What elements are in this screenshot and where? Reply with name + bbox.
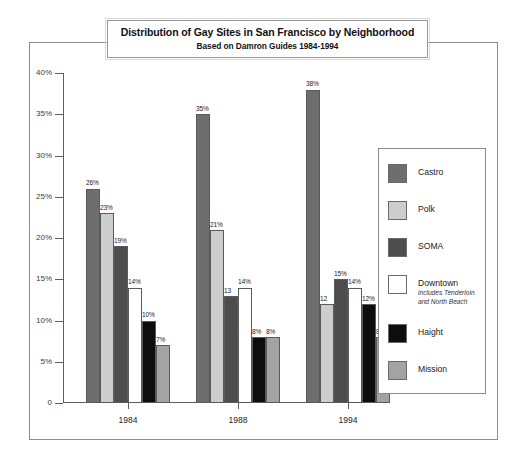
- y-axis-tick-label: 30%: [36, 152, 52, 160]
- chart-legend: CastroPolkSOMADowntownincludes Tenderloi…: [378, 148, 486, 394]
- legend-item-castro[interactable]: Castro: [388, 164, 443, 183]
- legend-label: Haight: [418, 327, 443, 338]
- legend-item-polk[interactable]: Polk: [388, 201, 435, 220]
- y-axis-tick-label: 20%: [36, 234, 52, 242]
- plot-area: 05%10%15%20%25%30%35%40% 26%23%19%14%10%…: [63, 73, 370, 403]
- bar-mission[interactable]: [266, 337, 280, 403]
- x-axis-tick-label: 1994: [339, 415, 358, 425]
- legend-label: Downtown: [418, 278, 475, 289]
- bar-value-label: 12: [320, 296, 327, 303]
- bar-castro[interactable]: [196, 114, 210, 403]
- legend-swatch-icon: [388, 361, 407, 380]
- bar-value-label: 7%: [156, 337, 165, 344]
- legend-text: Downtownincludes Tenderloinand North Bea…: [418, 278, 475, 306]
- bar-slot: 7%: [156, 73, 170, 403]
- x-axis-tick: [348, 403, 349, 409]
- bar-group: 35%21%1314%8%8%: [196, 73, 280, 403]
- legend-item-soma[interactable]: SOMA: [388, 238, 443, 257]
- bar-downtown[interactable]: [128, 288, 142, 404]
- bar-polk[interactable]: [100, 213, 114, 403]
- legend-item-haight[interactable]: Haight: [388, 324, 443, 343]
- bar-slot: 14%: [238, 73, 252, 403]
- bar-slot: 19%: [114, 73, 128, 403]
- bar-downtown[interactable]: [348, 288, 362, 404]
- legend-swatch-icon: [388, 324, 407, 343]
- bar-slot: 23%: [100, 73, 114, 403]
- bar-value-label: 10%: [142, 312, 155, 319]
- legend-text: SOMA: [418, 241, 443, 252]
- y-axis-tick: [55, 279, 63, 280]
- bar-haight[interactable]: [142, 321, 156, 404]
- bar-slot: 12%: [362, 73, 376, 403]
- legend-note: includes Tenderloin: [418, 289, 475, 298]
- bar-value-label: 14%: [128, 279, 141, 286]
- legend-text: Mission: [418, 364, 447, 375]
- bar-value-label: 15%: [334, 271, 347, 278]
- bar-value-label: 26%: [86, 180, 99, 187]
- bar-value-label: 35%: [196, 106, 209, 113]
- bar-group: 26%23%19%14%10%7%: [86, 73, 170, 403]
- legend-text: Polk: [418, 204, 435, 215]
- y-axis-tick: [55, 238, 63, 239]
- legend-label: Mission: [418, 364, 447, 375]
- legend-label: Castro: [418, 167, 443, 178]
- bar-value-label: 21%: [210, 222, 223, 229]
- legend-swatch-icon: [388, 164, 407, 183]
- y-axis-tick: [55, 156, 63, 157]
- y-axis-tick-label: 35%: [36, 110, 52, 118]
- bar-haight[interactable]: [362, 304, 376, 403]
- bar-soma[interactable]: [224, 296, 238, 403]
- y-axis-tick: [55, 114, 63, 115]
- bar-slot: 21%: [210, 73, 224, 403]
- bar-value-label: 14%: [348, 279, 361, 286]
- bar-slot: 10%: [142, 73, 156, 403]
- y-axis-tick-label: 15%: [36, 275, 52, 283]
- bar-slot: 8%: [266, 73, 280, 403]
- bar-value-label: 8%: [252, 329, 261, 336]
- chart-title: Distribution of Gay Sites in San Francis…: [108, 25, 427, 39]
- legend-swatch-icon: [388, 238, 407, 257]
- legend-text: Castro: [418, 167, 443, 178]
- bar-polk[interactable]: [320, 304, 334, 403]
- bar-value-label: 19%: [114, 238, 127, 245]
- y-axis-tick: [55, 321, 63, 322]
- bar-soma[interactable]: [114, 246, 128, 403]
- bar-slot: 8%: [252, 73, 266, 403]
- bar-polk[interactable]: [210, 230, 224, 403]
- bar-slot: 12: [320, 73, 334, 403]
- legend-item-downtown[interactable]: Downtownincludes Tenderloinand North Bea…: [388, 275, 475, 306]
- legend-text: Haight: [418, 327, 443, 338]
- chart-subtitle: Based on Damron Guides 1984-1994: [108, 40, 427, 52]
- x-axis-tick: [238, 403, 239, 409]
- bar-value-label: 13: [224, 288, 231, 295]
- bar-soma[interactable]: [334, 279, 348, 403]
- y-axis-tick: [55, 362, 63, 363]
- x-axis-tick: [128, 403, 129, 409]
- bar-slot: 26%: [86, 73, 100, 403]
- y-axis-tick: [55, 403, 63, 404]
- bar-mission[interactable]: [156, 345, 170, 403]
- bar-value-label: 8%: [266, 329, 275, 336]
- bar-value-label: 23%: [100, 205, 113, 212]
- y-axis-tick-label: 10%: [36, 317, 52, 325]
- legend-note: and North Beach: [418, 298, 475, 307]
- bar-value-label: 38%: [306, 81, 319, 88]
- legend-label: SOMA: [418, 241, 443, 252]
- bar-downtown[interactable]: [238, 288, 252, 404]
- bar-castro[interactable]: [86, 189, 100, 404]
- bar-slot: 38%: [306, 73, 320, 403]
- bar-slot: 13: [224, 73, 238, 403]
- bar-castro[interactable]: [306, 90, 320, 404]
- bar-value-label: 12%: [362, 296, 375, 303]
- y-axis-tick-label: 40%: [36, 69, 52, 77]
- y-axis-line: [63, 73, 64, 403]
- bar-haight[interactable]: [252, 337, 266, 403]
- bar-slot: 35%: [196, 73, 210, 403]
- x-axis-tick-label: 1988: [229, 415, 248, 425]
- bar-slot: 14%: [348, 73, 362, 403]
- legend-swatch-icon: [388, 201, 407, 220]
- y-axis-tick-label: 25%: [36, 193, 52, 201]
- x-axis-tick-label: 1984: [119, 415, 138, 425]
- legend-label: Polk: [418, 204, 435, 215]
- legend-item-mission[interactable]: Mission: [388, 361, 447, 380]
